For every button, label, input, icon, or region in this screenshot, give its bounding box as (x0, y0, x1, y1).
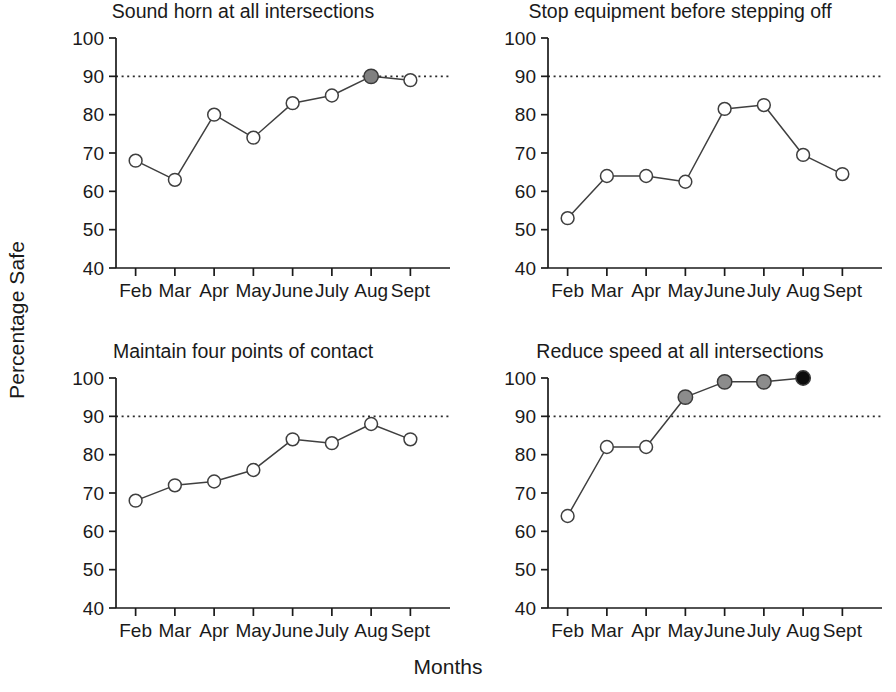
x-tick-label: Feb (119, 620, 152, 641)
data-point-marker[interactable] (247, 131, 260, 144)
y-tick-label: 40 (515, 598, 536, 619)
y-tick-label: 50 (83, 219, 104, 240)
y-tick-label: 100 (72, 368, 104, 389)
x-tick-label: July (747, 620, 781, 641)
data-point-marker[interactable] (325, 89, 338, 102)
data-point-marker[interactable] (757, 375, 771, 389)
data-point-marker[interactable] (247, 464, 260, 477)
x-tick-label: Feb (551, 620, 584, 641)
x-tick-label: Aug (354, 620, 388, 641)
x-tick-label: June (704, 620, 745, 641)
plot-area: 405060708090100FebMarAprMayJuneJulyAugSe… (38, 0, 458, 320)
data-point-marker[interactable] (286, 433, 299, 446)
y-tick-label: 50 (515, 559, 536, 580)
data-point-marker[interactable] (640, 170, 653, 183)
y-tick-label: 70 (515, 143, 536, 164)
x-tick-label: Feb (119, 280, 152, 301)
data-point-marker[interactable] (561, 510, 574, 523)
x-tick-label: July (315, 620, 349, 641)
data-point-marker[interactable] (717, 375, 731, 389)
y-tick-label: 80 (83, 444, 104, 465)
data-point-marker[interactable] (286, 97, 299, 110)
series-line (136, 76, 411, 180)
data-point-marker[interactable] (796, 371, 810, 385)
x-tick-label: Sept (823, 620, 863, 641)
y-axis-label: Percentage Safe (0, 0, 34, 640)
data-point-marker[interactable] (364, 69, 378, 83)
y-tick-label: 60 (515, 181, 536, 202)
y-tick-label: 90 (83, 406, 104, 427)
y-tick-label: 80 (515, 104, 536, 125)
x-tick-label: May (667, 280, 703, 301)
y-tick-label: 50 (83, 559, 104, 580)
data-point-marker[interactable] (404, 433, 417, 446)
x-tick-label: Apr (631, 280, 661, 301)
x-tick-label: May (235, 280, 271, 301)
data-point-marker[interactable] (836, 168, 849, 181)
data-point-marker[interactable] (208, 475, 221, 488)
panel-sound-horn: Sound horn at all intersections 40506070… (38, 0, 448, 320)
x-axis-label: Months (0, 655, 896, 679)
y-tick-label: 60 (83, 181, 104, 202)
y-tick-label: 70 (515, 483, 536, 504)
data-point-marker[interactable] (208, 108, 221, 121)
x-tick-label: Mar (159, 280, 192, 301)
data-point-marker[interactable] (129, 494, 142, 507)
y-tick-label: 70 (83, 143, 104, 164)
y-tick-label: 70 (83, 483, 104, 504)
x-axis-label-text: Months (414, 655, 483, 678)
x-tick-label: June (272, 620, 313, 641)
panel-stop-equipment: Stop equipment before stepping off 40506… (470, 0, 890, 320)
plot-area: 405060708090100FebMarAprMayJuneJulyAugSe… (470, 0, 890, 320)
data-point-marker[interactable] (640, 441, 653, 454)
y-tick-label: 40 (83, 598, 104, 619)
x-tick-label: Mar (159, 620, 192, 641)
data-point-marker[interactable] (325, 437, 338, 450)
y-tick-label: 60 (83, 521, 104, 542)
x-tick-label: Aug (786, 280, 820, 301)
x-tick-label: June (704, 280, 745, 301)
x-tick-label: May (667, 620, 703, 641)
data-point-marker[interactable] (600, 441, 613, 454)
data-point-marker[interactable] (797, 149, 810, 162)
x-tick-label: July (315, 280, 349, 301)
x-tick-label: Apr (199, 280, 229, 301)
data-point-marker[interactable] (561, 212, 574, 225)
figure-root: Percentage Safe Sound horn at all inters… (0, 0, 896, 692)
x-tick-label: Mar (591, 620, 624, 641)
data-point-marker[interactable] (168, 479, 181, 492)
data-point-marker[interactable] (718, 103, 731, 116)
y-tick-label: 40 (83, 258, 104, 279)
x-tick-label: May (235, 620, 271, 641)
data-point-marker[interactable] (365, 418, 378, 431)
y-tick-label: 100 (504, 368, 536, 389)
y-tick-label: 90 (83, 66, 104, 87)
y-tick-label: 60 (515, 521, 536, 542)
y-tick-label: 50 (515, 219, 536, 240)
x-tick-label: Sept (391, 280, 431, 301)
y-tick-label: 100 (72, 28, 104, 49)
x-tick-label: July (747, 280, 781, 301)
plot-area: 405060708090100FebMarAprMayJuneJulyAugSe… (38, 340, 458, 660)
panel-four-points: Maintain four points of contact 40506070… (38, 340, 448, 660)
data-point-marker[interactable] (404, 74, 417, 87)
y-axis-label-text: Percentage Safe (5, 241, 29, 399)
data-point-marker[interactable] (168, 173, 181, 186)
y-tick-label: 80 (83, 104, 104, 125)
data-point-marker[interactable] (678, 390, 692, 404)
x-tick-label: Sept (391, 620, 431, 641)
data-point-marker[interactable] (679, 175, 692, 188)
data-point-marker[interactable] (129, 154, 142, 167)
y-tick-label: 90 (515, 406, 536, 427)
x-tick-label: Mar (591, 280, 624, 301)
x-tick-label: Sept (823, 280, 863, 301)
y-tick-label: 100 (504, 28, 536, 49)
x-tick-label: Aug (354, 280, 388, 301)
x-tick-label: Apr (631, 620, 661, 641)
data-point-marker[interactable] (600, 170, 613, 183)
x-tick-label: June (272, 280, 313, 301)
x-tick-label: Aug (786, 620, 820, 641)
x-tick-label: Apr (199, 620, 229, 641)
data-point-marker[interactable] (757, 99, 770, 112)
y-tick-label: 90 (515, 66, 536, 87)
